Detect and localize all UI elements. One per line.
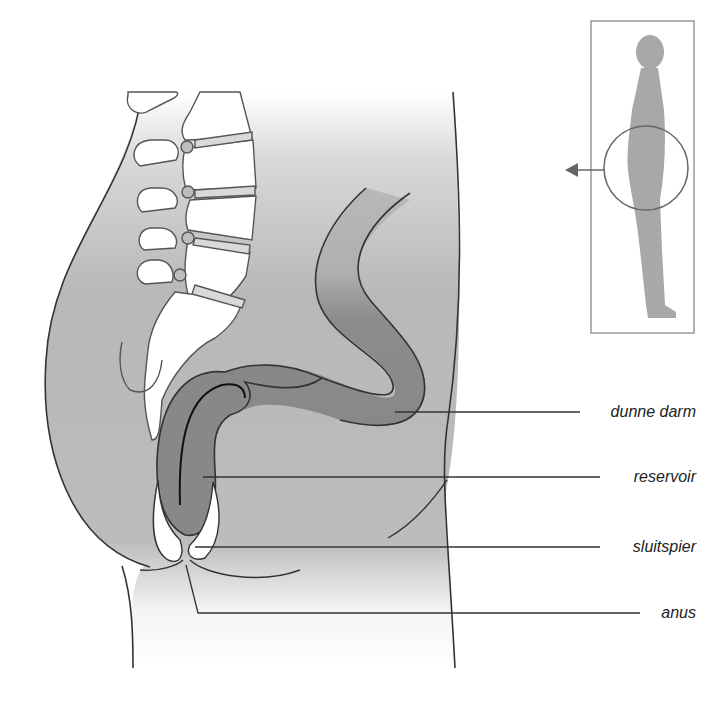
label-small-intestine: dunne darm (556, 403, 696, 421)
label-anus: anus (556, 604, 696, 622)
diagram-canvas: dunne darm reservoir sluitspier anus (0, 0, 725, 725)
label-sphincter: sluitspier (556, 538, 696, 556)
label-reservoir: reservoir (556, 468, 696, 486)
inset-figure (565, 21, 694, 333)
arrow-left-icon (565, 163, 578, 177)
